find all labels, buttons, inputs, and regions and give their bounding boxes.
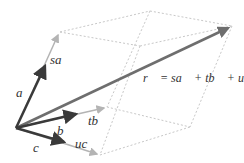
box-edge — [100, 127, 190, 155]
box-edge — [107, 107, 190, 127]
box-edge — [60, 11, 150, 32]
label-tb: tb⃗ — [88, 113, 108, 128]
box-edge — [100, 46, 140, 155]
vector-diagram: sa⃗ a⃗ b⃗ c⃗ tb⃗ uc⃗ r⃗ = sa⃗ + tb⃗ + uc… — [0, 0, 244, 163]
equation-label: r⃗ = sa⃗ + tb⃗ + uc⃗ — [143, 71, 244, 85]
box-edge — [107, 11, 150, 107]
box-edge — [60, 32, 140, 46]
label-c: c⃗ — [33, 140, 49, 155]
label-b: b⃗ — [57, 123, 74, 138]
box-edge — [150, 11, 232, 26]
label-a: a⃗ — [16, 85, 33, 100]
label-sa: sa⃗ — [50, 52, 72, 67]
box-edge — [140, 26, 232, 46]
label-uc: uc⃗ — [75, 136, 97, 151]
